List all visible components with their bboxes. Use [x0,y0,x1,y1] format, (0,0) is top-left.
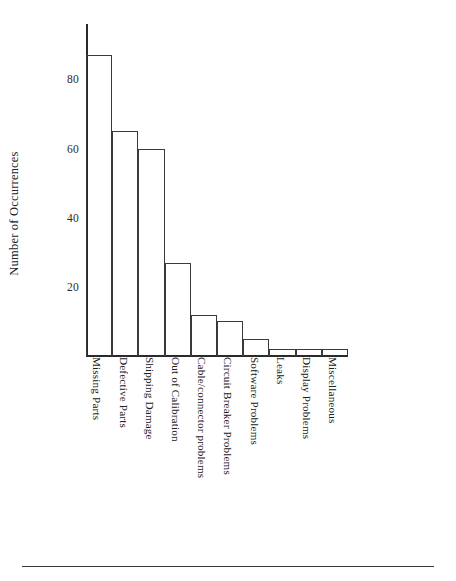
footer-rule [22,566,434,567]
x-category-label: Missing Parts [91,357,103,420]
y-axis-title-text: Number of Occurrences [7,151,22,275]
bar [138,149,164,357]
x-category-label: Defective Parts [118,357,130,428]
x-category-label: Leaks [275,357,287,384]
y-axis-title: Number of Occurrences [5,128,23,298]
bar [296,349,322,356]
x-axis-category-labels: Missing PartsDefective PartsShipping Dam… [86,357,348,552]
bar-series [86,24,348,356]
x-category-label: Cable/connector problems [196,357,208,478]
bar [217,321,243,356]
x-category-label: Circuit Breaker Problems [222,357,234,475]
y-tick-label: 20 [67,281,79,293]
bar [269,349,295,356]
bar [243,339,269,356]
x-category-label: Shipping Damage [144,357,156,440]
y-tick-label: 60 [67,143,79,155]
bar [165,263,191,356]
y-tick-label: 80 [67,73,79,85]
x-category-label: Display Problems [301,357,313,439]
bar [191,315,217,357]
x-category-label: Out of Calibration [170,357,182,442]
x-category-label: Software Problems [249,357,261,445]
x-category-label: Miscellaneous [327,357,339,424]
y-tick-label: 40 [67,212,79,224]
bar [322,349,348,356]
clipped-header-text [60,0,400,3]
bar [86,55,112,356]
bar [112,131,138,356]
